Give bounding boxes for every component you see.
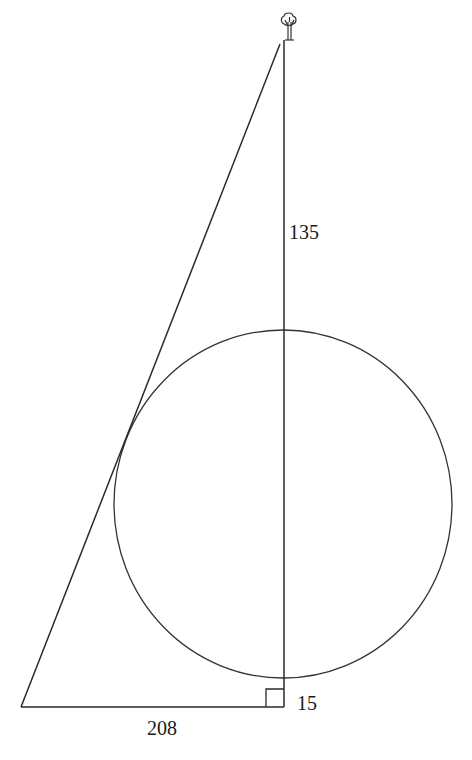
label-small-segment: 15 xyxy=(297,693,317,713)
label-vertical-segment: 135 xyxy=(289,222,319,242)
label-base: 208 xyxy=(147,718,177,738)
hypotenuse xyxy=(21,44,280,707)
diagram-canvas xyxy=(0,0,472,760)
right-angle-marker xyxy=(266,689,284,707)
circle xyxy=(114,330,452,678)
tree-icon xyxy=(281,13,296,40)
